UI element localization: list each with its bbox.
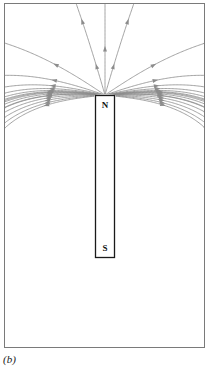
magnet-north-label: N [102, 100, 109, 110]
magnet-south-label: S [102, 243, 107, 253]
magnetic-field-figure: N S (b) [0, 0, 209, 371]
bar-magnet [96, 96, 115, 258]
figure-caption: (b) [3, 353, 16, 365]
field-line-canvas: N S [0, 0, 209, 371]
